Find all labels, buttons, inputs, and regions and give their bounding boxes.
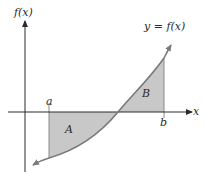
y-axis-label: f(x) <box>14 7 33 18</box>
x-axis-label: x <box>193 106 199 117</box>
region-a-shading <box>49 112 118 158</box>
region-b-label: B <box>142 88 150 99</box>
b-label: b <box>160 117 167 128</box>
area-under-curve-diagram: f(x) y = f(x) x a b A B <box>0 0 206 179</box>
a-label: a <box>46 96 53 107</box>
region-a-label: A <box>65 124 73 135</box>
curve-upper-extension <box>164 45 171 58</box>
curve-label: y = f(x) <box>144 21 185 32</box>
